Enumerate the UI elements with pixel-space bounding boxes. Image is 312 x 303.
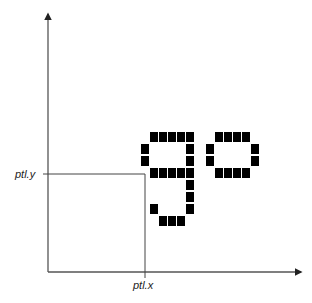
glyph-pixel	[159, 168, 167, 178]
glyph-pixel	[159, 132, 167, 142]
glyph-pixel	[186, 204, 194, 214]
glyph-pixel	[233, 168, 241, 178]
glyph-pixel	[186, 168, 194, 178]
glyph-pixel	[215, 132, 223, 142]
glyph-pixel	[168, 216, 176, 226]
glyph-pixel	[186, 192, 194, 202]
glyph-pixel	[186, 132, 194, 142]
glyph-pixel	[206, 144, 214, 154]
glyph-pixel	[224, 168, 232, 178]
glyph-pixel	[224, 132, 232, 142]
glyph-pixel	[150, 204, 158, 214]
glyph-pixel	[177, 168, 185, 178]
glyph-pixel	[186, 180, 194, 190]
glyph-pixel	[186, 144, 194, 154]
glyph-pixel	[177, 132, 185, 142]
coordinate-diagram: ptl.y ptl.x	[0, 0, 312, 303]
glyph-pixel	[251, 156, 259, 166]
glyph-pixel	[251, 144, 259, 154]
glyph-pixel	[233, 132, 241, 142]
glyph-pixel	[242, 132, 250, 142]
glyph-pixel	[168, 132, 176, 142]
glyph-pixel	[141, 144, 149, 154]
glyph-pixel	[150, 168, 158, 178]
point-y-label: ptl.y	[14, 168, 37, 180]
glyph-pixel	[177, 216, 185, 226]
point-x-label: ptl.x	[132, 279, 154, 291]
glyph-pixel	[215, 168, 223, 178]
glyph-pixel	[186, 156, 194, 166]
glyph-pixel	[150, 132, 158, 142]
glyph-g-bitmap	[141, 132, 194, 226]
glyph-o-bitmap	[206, 132, 259, 178]
glyph-pixel	[168, 168, 176, 178]
glyph-pixel	[159, 216, 167, 226]
glyph-pixel	[242, 168, 250, 178]
glyph-pixel	[206, 156, 214, 166]
glyph-pixel	[141, 156, 149, 166]
